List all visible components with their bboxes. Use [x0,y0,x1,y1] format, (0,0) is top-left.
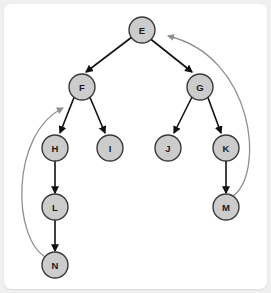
node-m[interactable]: M [213,194,239,220]
node-h[interactable]: H [42,135,68,161]
node-e[interactable]: E [129,17,155,43]
node-n-circle[interactable] [42,252,68,278]
node-g[interactable]: G [187,74,213,100]
node-i-circle[interactable] [97,135,123,161]
node-m-circle[interactable] [213,194,239,220]
node-j[interactable]: J [155,135,181,161]
node-g-circle[interactable] [187,74,213,100]
tree-edge-f-to-i [89,95,105,133]
node-j-circle[interactable] [155,135,181,161]
node-e-circle[interactable] [129,17,155,43]
tree-edge-f-to-h [60,95,75,133]
back-edge-n-to-h [22,108,63,258]
node-l[interactable]: L [42,194,68,220]
node-k[interactable]: K [213,135,239,161]
node-f[interactable]: F [69,74,95,100]
tree-edge-g-to-k [207,95,221,133]
diagram-card: E F G H I J K L [4,4,267,289]
graph-canvas: E F G H I J K L [4,4,267,289]
tree-edges-group [55,37,226,251]
tree-edge-e-to-f [86,37,132,72]
node-n[interactable]: N [42,252,68,278]
node-k-circle[interactable] [213,135,239,161]
node-h-circle[interactable] [42,135,68,161]
node-l-circle[interactable] [42,194,68,220]
node-i[interactable]: I [97,135,123,161]
back-edge-m-to-e [168,36,250,197]
node-f-circle[interactable] [69,74,95,100]
tree-edge-g-to-j [174,95,193,133]
